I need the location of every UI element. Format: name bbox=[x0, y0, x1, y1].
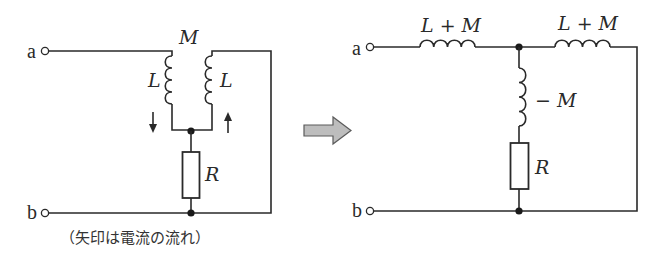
coil-right-label: L bbox=[219, 69, 233, 91]
terminal-b-label-right: b bbox=[352, 199, 362, 221]
terminal-a-label: a bbox=[27, 40, 36, 62]
wire-top-left bbox=[49, 51, 172, 56]
coil-shunt-label: − M bbox=[535, 89, 577, 111]
terminal-a[interactable] bbox=[41, 47, 48, 54]
coil-series-left-label: L + M bbox=[420, 14, 482, 36]
coil-series-right bbox=[555, 40, 610, 47]
coil-series-left bbox=[420, 40, 475, 47]
coil-right bbox=[205, 56, 212, 104]
coil-series-right-label: L + M bbox=[557, 12, 619, 34]
mutual-inductance-label: M bbox=[178, 26, 199, 48]
terminal-a-right[interactable] bbox=[366, 43, 373, 50]
right-circuit: a b L + M L + M − M R bbox=[352, 12, 637, 221]
circuit-diagram: a b M L L R （矢印は電流の流れ） bbox=[0, 0, 664, 256]
junction-dot-bottom bbox=[187, 209, 194, 216]
terminal-b-right[interactable] bbox=[366, 207, 373, 214]
terminal-b-label: b bbox=[27, 201, 37, 223]
current-arrow-up-icon bbox=[224, 112, 232, 133]
resistor-left-label: R bbox=[204, 163, 219, 185]
caption-current-flow: （矢印は電流の流れ） bbox=[60, 229, 210, 247]
terminal-b[interactable] bbox=[41, 209, 48, 216]
transform-right-arrow-icon bbox=[304, 117, 351, 144]
terminal-a-label-right: a bbox=[352, 37, 361, 59]
current-arrow-down-icon bbox=[149, 112, 157, 133]
coil-left bbox=[165, 56, 172, 104]
wire-junction-bottom bbox=[172, 104, 212, 130]
resistor-left bbox=[183, 152, 200, 198]
resistor-right-label: R bbox=[534, 156, 549, 178]
junction-dot-bottom-right bbox=[515, 207, 522, 214]
coil-shunt bbox=[519, 68, 526, 126]
coil-left-label: L bbox=[147, 69, 161, 91]
resistor-right bbox=[511, 143, 529, 189]
wire-right-return bbox=[374, 47, 637, 211]
left-circuit: a b M L L R （矢印は電流の流れ） bbox=[27, 26, 271, 247]
